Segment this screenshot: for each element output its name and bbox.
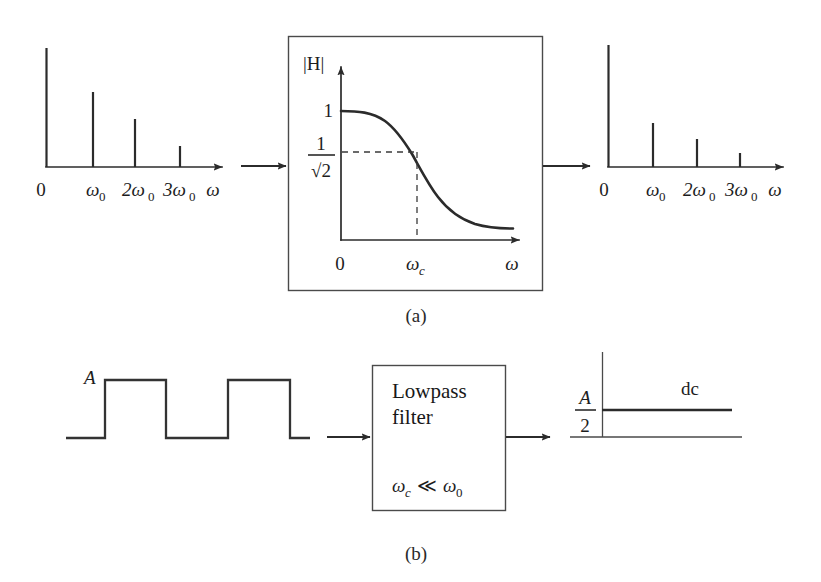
panel-b-input-waveform: A xyxy=(66,367,310,438)
panel-a-filter-block: |H| 1 1 √2 0 ω c ω xyxy=(289,37,543,291)
svg-text:ω: ω xyxy=(646,179,659,200)
svg-text:c: c xyxy=(419,263,425,278)
condition-omega-0: ω xyxy=(443,475,456,496)
dc-annotation-label: dc xyxy=(681,378,699,399)
half-power-denominator: √2 xyxy=(311,160,331,181)
output-spectrum-tick-0: 0 xyxy=(599,179,609,200)
lowpass-filter-cutoff-condition: ω c ≪ ω 0 xyxy=(392,475,463,500)
square-wave-amplitude-label: A xyxy=(82,367,96,388)
input-spectrum-tick-w0: ω 0 xyxy=(86,179,106,204)
panel-b-filter-block: Lowpass filter ω c ≪ ω 0 xyxy=(373,366,506,511)
input-spectrum-tick-0: 0 xyxy=(36,179,46,200)
input-spectrum-tick-2w0: 2ω 0 xyxy=(122,179,155,204)
panel-a-caption: (a) xyxy=(405,305,426,327)
figure-canvas: 0 ω 0 2ω 0 3ω 0 ω xyxy=(0,0,821,582)
svg-text:0: 0 xyxy=(189,189,196,204)
filter-response-vertical-axis-label: |H| xyxy=(303,53,324,74)
dc-output-level-label: A 2 xyxy=(575,387,596,436)
filter-cutoff-label: ω c xyxy=(406,253,425,278)
filter-response-horizontal-axis-label: ω xyxy=(505,253,518,274)
svg-text:2ω: 2ω xyxy=(122,179,145,200)
svg-text:0: 0 xyxy=(659,189,666,204)
svg-text:2ω: 2ω xyxy=(683,179,706,200)
output-spectrum-tick-w0: ω 0 xyxy=(646,179,666,204)
dc-level-denominator: 2 xyxy=(580,415,590,436)
svg-text:0: 0 xyxy=(709,189,716,204)
svg-text:3ω: 3ω xyxy=(724,179,748,200)
figure-container: 0 ω 0 2ω 0 3ω 0 ω xyxy=(0,0,821,582)
half-power-numerator: 1 xyxy=(316,133,326,154)
panel-a-output-spectrum: 0 ω 0 2ω 0 3ω 0 ω xyxy=(599,45,783,204)
input-spectrum-tick-3w0: 3ω 0 xyxy=(162,179,196,204)
square-wave-trace xyxy=(66,380,310,438)
panel-b-output-waveform: A 2 dc xyxy=(570,352,742,437)
condition-much-less-than: ≪ xyxy=(417,475,437,496)
lowpass-filter-label-line1: Lowpass xyxy=(392,379,467,403)
condition-omega-c-sub: c xyxy=(405,485,411,500)
panel-b-caption: (b) xyxy=(405,543,427,565)
output-spectrum-tick-2w0: 2ω 0 xyxy=(683,179,716,204)
filter-gain-half-power-label: 1 √2 xyxy=(308,133,335,181)
svg-text:0: 0 xyxy=(99,189,106,204)
svg-text:ω: ω xyxy=(86,179,99,200)
panel-a-input-spectrum: 0 ω 0 2ω 0 3ω 0 ω xyxy=(36,48,222,204)
svg-text:3ω: 3ω xyxy=(162,179,186,200)
filter-response-origin-label: 0 xyxy=(335,253,345,274)
input-spectrum-axis-label: ω xyxy=(206,179,219,200)
output-spectrum-tick-3w0: 3ω 0 xyxy=(724,179,758,204)
condition-omega-0-sub: 0 xyxy=(456,485,463,500)
output-spectrum-axis-label: ω xyxy=(768,179,781,200)
svg-text:0: 0 xyxy=(148,189,155,204)
condition-omega-c: ω xyxy=(392,475,405,496)
dc-level-numerator: A xyxy=(577,387,591,408)
lowpass-magnitude-curve xyxy=(341,111,513,229)
filter-gain-unity-label: 1 xyxy=(324,100,334,121)
svg-text:0: 0 xyxy=(751,189,758,204)
lowpass-filter-label-line2: filter xyxy=(392,405,433,429)
svg-text:ω: ω xyxy=(406,253,419,274)
